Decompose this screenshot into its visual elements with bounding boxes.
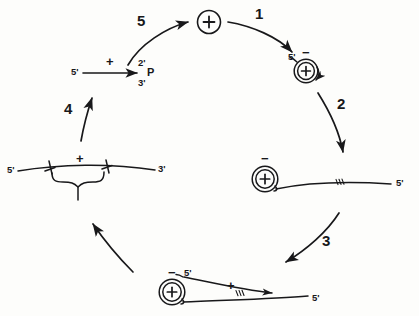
- top-left-plus-label: +: [106, 55, 114, 68]
- top-left-two-prime-label: 2': [138, 58, 146, 68]
- left-middle-three-prime-label: 3': [158, 164, 166, 174]
- step-number-4: 4: [64, 101, 72, 116]
- diagram-vector-layer: [0, 0, 419, 316]
- bottom-strand-plus-label: +: [227, 279, 235, 292]
- top-right-minus-label: −: [302, 46, 310, 59]
- step-1-arrow: [228, 22, 292, 52]
- top-circle-node: [198, 11, 221, 34]
- bottom-five-prime-upper-label: 5': [184, 268, 192, 278]
- top-left-three-prime-label: 3': [138, 78, 146, 88]
- step-3-arrow: [286, 213, 339, 262]
- cycle-diagram-figure: 1 2 3 4 5 5' − − 5' − 5' 5' + 5' 3' + 5'…: [0, 0, 419, 316]
- left-middle-plus-label: +: [76, 152, 84, 165]
- step-number-1: 1: [255, 6, 263, 21]
- left-middle-node: [18, 160, 155, 200]
- bottom-minus-label: −: [168, 266, 176, 279]
- top-left-phosphate-label: P: [147, 67, 154, 78]
- top-right-five-prime-label: 5': [288, 52, 296, 62]
- right-middle-node: [252, 166, 391, 192]
- step-number-5: 5: [137, 13, 145, 28]
- left-middle-five-prime-label: 5': [7, 165, 15, 175]
- right-middle-minus-label: −: [261, 152, 269, 165]
- step-number-3: 3: [322, 233, 330, 248]
- bottom-to-left-arrow: [93, 224, 133, 272]
- bottom-five-prime-lower-label: 5': [312, 293, 320, 303]
- top-left-five-prime-label: 5': [71, 67, 79, 77]
- step-number-2: 2: [337, 96, 345, 111]
- right-middle-five-prime-label: 5': [396, 178, 404, 188]
- step-4-arrow: [81, 98, 92, 141]
